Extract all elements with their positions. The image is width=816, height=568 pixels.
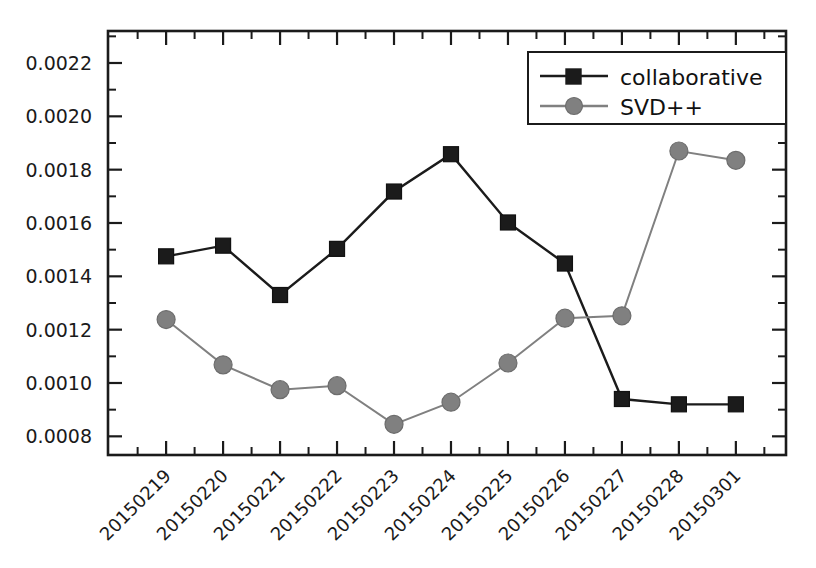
y-tick-label: 0.0022 [26, 52, 92, 74]
data-point-marker [157, 311, 175, 329]
data-point-marker [728, 397, 743, 412]
line-chart-canvas: 0.00080.00100.00120.00140.00160.00180.00… [0, 0, 816, 568]
data-point-marker [671, 397, 686, 412]
chart-legend: collaborative SVD++ [528, 52, 786, 124]
data-point-marker [670, 142, 688, 160]
y-tick-label: 0.0010 [26, 372, 92, 394]
data-point-marker [271, 381, 289, 399]
legend-marker-square-icon [566, 69, 581, 84]
y-tick-label: 0.0020 [26, 105, 92, 127]
data-point-marker [387, 184, 402, 199]
data-point-marker [727, 151, 745, 169]
data-point-marker [613, 307, 631, 325]
data-point-marker [273, 288, 288, 303]
data-point-marker [214, 356, 232, 374]
data-point-marker [443, 147, 458, 162]
chart-figure: 0.00080.00100.00120.00140.00160.00180.00… [0, 0, 816, 568]
legend-marker-circle-icon [566, 98, 583, 115]
data-point-marker [330, 241, 345, 256]
data-point-marker [557, 256, 572, 271]
y-tick-label: 0.0012 [26, 319, 92, 341]
y-tick-label: 0.0016 [26, 212, 92, 234]
data-point-marker [614, 392, 629, 407]
legend-label-svdpp: SVD++ [620, 95, 703, 120]
data-point-marker [499, 354, 517, 372]
data-point-marker [216, 238, 231, 253]
data-point-marker [500, 215, 515, 230]
data-point-marker [442, 393, 460, 411]
data-point-marker [556, 309, 574, 327]
y-tick-label: 0.0008 [26, 425, 92, 447]
y-tick-label: 0.0018 [26, 159, 92, 181]
data-point-marker [385, 415, 403, 433]
data-point-marker [159, 249, 174, 264]
legend-label-collaborative: collaborative [620, 65, 763, 90]
y-tick-label: 0.0014 [26, 265, 92, 287]
data-point-marker [328, 377, 346, 395]
